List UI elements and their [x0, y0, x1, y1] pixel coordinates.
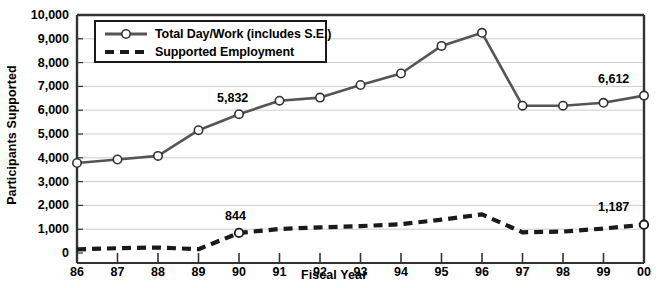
y-axis-tick-label: 7,000 [3, 80, 69, 92]
x-axis-tick-label: 87 [98, 266, 138, 278]
y-axis-tick-label: 9,000 [3, 33, 69, 45]
x-axis-tick-label: 96 [462, 266, 502, 278]
legend-key-line-marker-icon [104, 26, 148, 42]
x-axis-tick-label: 92 [300, 266, 340, 278]
y-axis-tick-label: 8,000 [3, 57, 69, 69]
chart-container: Participants Supported Fiscal Year 01,00… [0, 0, 668, 288]
y-axis-tick-label: 3,000 [3, 176, 69, 188]
x-axis-tick-label: 97 [503, 266, 543, 278]
y-axis-tick-label: 10,000 [3, 9, 69, 21]
y-axis-tick-label: 2,000 [3, 199, 69, 211]
data-point-value-label: 5,832 [217, 92, 248, 104]
legend-label-total: Total Day/Work (includes S.E.) [155, 27, 331, 41]
y-axis-tick-label: 0 [3, 247, 69, 259]
x-axis-tick-label: 00 [624, 266, 664, 278]
x-axis-tick-label: 89 [179, 266, 219, 278]
x-axis-tick-label: 94 [381, 266, 421, 278]
x-axis-tick-label: 99 [584, 266, 624, 278]
data-point-value-label: 844 [225, 210, 246, 222]
x-axis-tick-label: 88 [138, 266, 178, 278]
legend-item-supported-employment: Supported Employment [104, 43, 294, 61]
data-point-value-label: 6,612 [598, 73, 629, 85]
x-axis-tick-label: 95 [422, 266, 462, 278]
x-axis-tick-label: 98 [543, 266, 583, 278]
y-axis-tick-label: 5,000 [3, 128, 69, 140]
y-axis-tick-label: 1,000 [3, 223, 69, 235]
data-point-value-label: 1,187 [598, 201, 629, 213]
chart-legend: Total Day/Work (includes S.E.) Supported… [94, 20, 327, 63]
x-axis-tick-label: 86 [57, 266, 97, 278]
x-axis-tick-label: 93 [341, 266, 381, 278]
y-axis-tick-label: 6,000 [3, 104, 69, 116]
legend-key-dashed-line-icon [104, 44, 148, 60]
x-axis-tick-label: 91 [260, 266, 300, 278]
x-axis-ticks [77, 253, 644, 263]
legend-item-total: Total Day/Work (includes S.E.) [104, 25, 331, 43]
x-axis-tick-label: 90 [219, 266, 259, 278]
y-axis-tick-label: 4,000 [3, 152, 69, 164]
legend-label-supported-employment: Supported Employment [155, 45, 294, 59]
